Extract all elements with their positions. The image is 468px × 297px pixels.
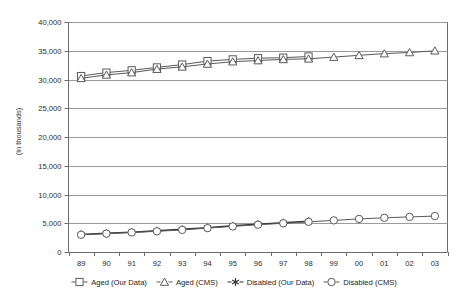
data-point-circle-marker-icon [305,218,312,225]
x-axis-tick-label: 91 [127,259,135,268]
x-axis-tick-label: 02 [405,259,413,268]
square-marker-icon [71,277,88,287]
y-axis-tick-label: 40,000 [38,18,61,27]
x-axis-tick-label: 99 [330,259,338,268]
legend-item-label: Aged (CMS) [176,278,218,287]
x-axis-tick-label: 00 [355,259,363,268]
x-axis-tick-label: 92 [153,259,161,268]
legend-item[interactable]: Aged (CMS) [156,277,218,287]
x-axis-tick-label: 90 [102,259,110,268]
data-point-circle-marker-icon [406,213,413,220]
x-axis-tick-label: 95 [229,259,237,268]
data-point-circle-marker-icon [179,226,186,233]
x-axis-tick-label: 89 [77,259,85,268]
legend-item[interactable]: Disabled (Our Data) [227,277,315,287]
data-point-circle-marker-icon [381,214,388,221]
x-axis-tick-label: 96 [254,259,262,268]
y-axis-tick-label: 0 [57,248,61,257]
x-axis-tick-label: 97 [279,259,287,268]
data-point-asterisk-marker-icon [232,278,239,286]
data-point-circle-marker-icon [103,230,110,237]
legend-item[interactable]: Disabled (CMS) [323,277,397,287]
y-axis-tick-label: 25,000 [38,104,61,113]
chart-legend: Aged (Our Data)Aged (CMS)Disabled (Our D… [0,274,468,290]
chart-plot: 05,00010,00015,00020,00025,00030,00035,0… [0,0,468,297]
y-axis-tick-label: 35,000 [38,47,61,56]
data-point-circle-marker-icon [330,217,337,224]
legend-item-label: Disabled (Our Data) [247,278,315,287]
asterisk-marker-icon [227,277,244,287]
y-axis-tick-label: 30,000 [38,76,61,85]
triangle-marker-icon [156,277,173,287]
x-axis-tick-label: 93 [178,259,186,268]
chart-container: (in thousands) 05,00010,00015,00020,0002… [0,0,468,297]
x-axis-tick-label: 03 [431,259,439,268]
data-point-circle-marker-icon [229,223,236,230]
y-axis-tick-label: 20,000 [38,133,61,142]
legend-item-label: Aged (Our Data) [91,278,147,287]
circle-marker-icon [323,277,340,287]
legend-item[interactable]: Aged (Our Data) [71,277,147,287]
data-point-circle-marker-icon [77,231,84,238]
x-axis-tick-label: 01 [380,259,388,268]
x-axis-tick-label: 94 [203,259,211,268]
data-point-circle-marker-icon [204,224,211,231]
data-point-circle-marker-icon [254,221,261,228]
y-axis-tick-label: 5,000 [42,219,61,228]
data-point-square-marker-icon [76,278,83,285]
legend-item-label: Disabled (CMS) [343,278,397,287]
data-point-triangle-marker-icon [431,47,439,54]
data-point-circle-marker-icon [431,212,438,219]
data-point-circle-marker-icon [328,278,335,285]
y-axis-tick-label: 15,000 [38,162,61,171]
y-axis-tick-label: 10,000 [38,191,61,200]
data-point-circle-marker-icon [153,228,160,235]
data-point-circle-marker-icon [128,229,135,236]
data-point-triangle-marker-icon [160,278,168,285]
data-point-circle-marker-icon [355,215,362,222]
data-point-circle-marker-icon [280,220,287,227]
x-axis-tick-label: 98 [304,259,312,268]
